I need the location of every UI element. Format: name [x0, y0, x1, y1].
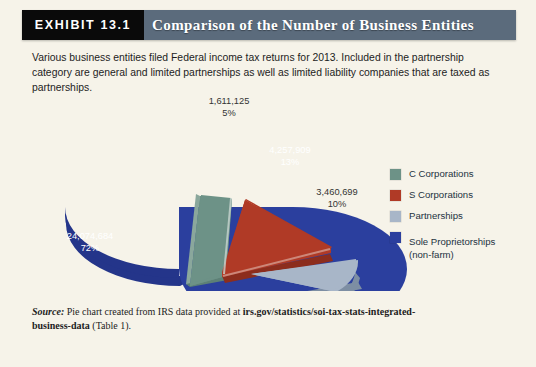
source-note: Source: Pie chart created from IRS data … [32, 305, 452, 332]
legend-swatch-icon-c-corporations [390, 169, 401, 180]
legend-label-c-corporations: C Corporations [409, 168, 474, 180]
pie-label-s-corporations: 4,257,909 13% [250, 144, 330, 168]
legend-item-partnerships: Partnerships [390, 210, 530, 222]
legend-sublabel-sole-proprietorships: (non-farm) [409, 249, 495, 261]
legend-label-s-corporations: S Corporations [409, 189, 473, 201]
source-label: Source: [32, 306, 64, 317]
legend-label-sole-proprietorships-group: Sole Proprietorships (non-farm) [409, 231, 495, 261]
source-text-before: Pie chart created from IRS data provided… [64, 306, 243, 317]
legend-swatch-icon-partnerships [390, 211, 401, 222]
pie-label-sole-proprietorships: 24,074,684 72% [45, 230, 135, 254]
legend-swatch-icon-sole-proprietorships [390, 232, 401, 243]
legend-label-sole-proprietorships: Sole Proprietorships [409, 236, 495, 247]
exhibit-number-badge: EXHIBIT 13.1 [22, 10, 144, 40]
pie-label-partnerships: 3,460,699 10% [297, 186, 377, 210]
page-title: Comparison of the Number of Business Ent… [152, 10, 474, 40]
legend-swatch-icon-s-corporations [390, 190, 401, 201]
source-text-after: (Table 1). [90, 320, 131, 331]
legend-item-s-corporations: S Corporations [390, 189, 530, 201]
legend-item-c-corporations: C Corporations [390, 168, 530, 180]
exhibit-card: EXHIBIT 13.1 Comparison of the Number of… [0, 0, 536, 367]
exhibit-number-label: EXHIBIT 13.1 [35, 18, 131, 32]
legend-label-partnerships: Partnerships [409, 210, 463, 222]
pie-label-c-corporations: 1,611,125 5% [191, 95, 267, 119]
chart-legend: C Corporations S Corporations Partnershi… [390, 168, 530, 270]
legend-item-sole-proprietorships: Sole Proprietorships (non-farm) [390, 231, 530, 261]
